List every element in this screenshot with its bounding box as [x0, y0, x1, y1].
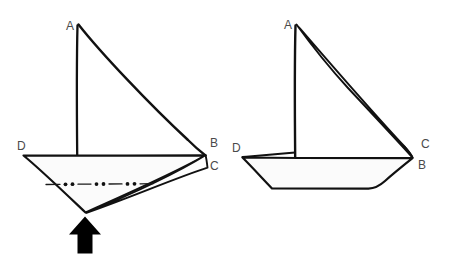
- left-label-d: D: [17, 139, 26, 153]
- left-label-b: B: [210, 136, 218, 150]
- left-figure: A B C D: [17, 19, 219, 254]
- right-label-d: D: [232, 141, 241, 155]
- left-label-c: C: [210, 159, 219, 173]
- sailboat-diagram-canvas: A B C D A C B D: [0, 0, 451, 263]
- right-mast: [295, 26, 296, 159]
- right-figure: A C B D: [232, 18, 430, 189]
- left-centerline-dot-3: [95, 182, 99, 186]
- left-centerline-dot-5: [126, 182, 130, 186]
- left-centerline-dot-2: [71, 182, 75, 186]
- left-sail-outline: [79, 25, 206, 156]
- right-sail-sliver: [297, 25, 413, 158]
- left-mast: [77, 26, 78, 156]
- right-c-tick: [405, 147, 413, 158]
- left-centerline-dot-1: [64, 182, 68, 186]
- up-arrow-icon: [69, 217, 101, 254]
- left-centerline-dot-6: [133, 182, 137, 186]
- right-label-c: C: [421, 137, 430, 151]
- left-label-a: A: [66, 19, 74, 33]
- left-centerline-dot-4: [102, 182, 106, 186]
- right-hull: [243, 158, 413, 189]
- right-label-a: A: [284, 18, 292, 32]
- right-label-b: B: [418, 158, 426, 172]
- right-gaff: [243, 153, 296, 157]
